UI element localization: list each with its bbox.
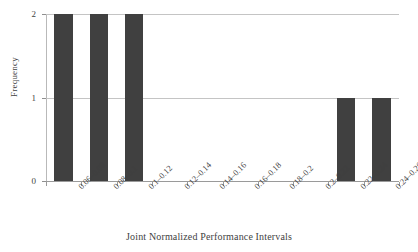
- bar: [125, 14, 143, 181]
- bar: [54, 14, 72, 181]
- x-tick-label: 0.1–0.12: [146, 184, 153, 191]
- x-tick-label: 0.24–0.26: [393, 184, 400, 191]
- y-tick-label: 2: [32, 9, 37, 19]
- x-tick-label: 0.18–0.2: [287, 184, 294, 191]
- x-axis-title: Joint Normalized Performance Intervals: [0, 231, 418, 242]
- x-tick-label: 0.06–0.08: [76, 184, 83, 191]
- x-tick-label: 0.12–0.14: [182, 184, 189, 191]
- x-tick-label: 0.16–0.18: [252, 184, 259, 191]
- plot-area: 012: [46, 14, 399, 182]
- x-tick-label: 0.22–0.24: [358, 184, 365, 191]
- y-tick-label: 0: [32, 176, 37, 186]
- y-tick-label: 1: [32, 93, 37, 103]
- y-axis-title: Frequency: [9, 37, 19, 117]
- bar: [90, 14, 108, 181]
- y-tick-mark: 2: [42, 14, 46, 15]
- x-tick-label: 0.14–0.16: [217, 184, 224, 191]
- x-axis-tick-labels: 0.06–0.080.08–0.10.1–0.120.12–0.140.14–0…: [46, 184, 399, 228]
- x-tick-label: 0.2–0.22: [323, 184, 330, 191]
- x-tick-label: 0.08–0.1: [111, 184, 118, 191]
- y-tick-mark: 1: [42, 98, 46, 99]
- histogram-chart: Frequency 012 0.06–0.080.08–0.10.1–0.120…: [0, 0, 418, 252]
